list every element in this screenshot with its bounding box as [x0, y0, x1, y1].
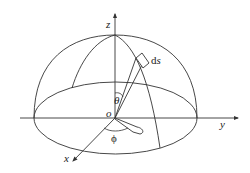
meridian-left: [72, 35, 115, 88]
y-axis-label: y: [219, 118, 225, 130]
area-element-ds: [136, 53, 149, 68]
theta-label: θ: [114, 94, 120, 106]
radius-line-2: [115, 63, 143, 118]
x-axis-label: x: [63, 152, 69, 164]
phi-arc: [104, 128, 128, 131]
origin-label: o: [106, 107, 112, 119]
ds-label: ds: [151, 54, 161, 66]
radius-line-1: [115, 58, 136, 118]
z-axis-label: z: [105, 18, 111, 30]
phi-label: ϕ: [111, 132, 117, 144]
projection-element: [115, 118, 143, 134]
x-axis: [73, 118, 115, 161]
hemisphere-diagram: z y x o θ ϕ ds: [0, 0, 250, 173]
